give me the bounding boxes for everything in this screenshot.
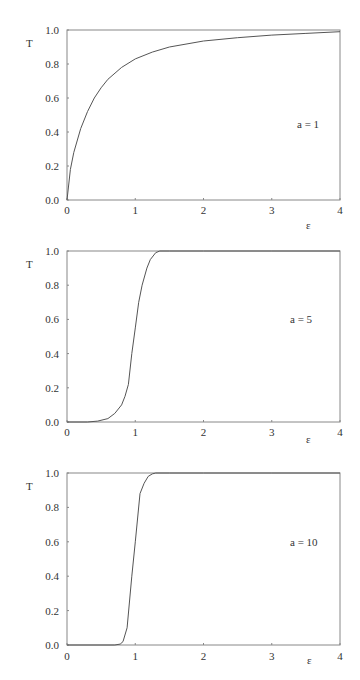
y-tick-label: 0.2 — [45, 382, 59, 394]
x-tick-label: 4 — [337, 204, 343, 216]
y-tick-label: 0.6 — [45, 536, 59, 548]
x-tick-label: 1 — [133, 650, 139, 662]
parameter-annotation: a = 1 — [297, 118, 319, 130]
x-tick-label: 4 — [337, 426, 343, 438]
chart-panel-a10: 0.00.20.40.60.81.001234Tεa = 10 — [0, 450, 360, 680]
x-axis-label: ε — [306, 433, 311, 445]
y-tick-label: 1.0 — [45, 467, 59, 479]
x-tick-label: 3 — [269, 426, 275, 438]
x-axis-label: ε — [306, 219, 311, 230]
y-axis-label: T — [26, 480, 33, 492]
x-tick-label: 1 — [133, 426, 139, 438]
x-tick-label: 2 — [201, 650, 207, 662]
y-tick-label: 0.4 — [45, 348, 59, 360]
chart-panel-a5: 0.00.20.40.60.81.001234Tεa = 5 — [0, 230, 360, 450]
y-tick-label: 0.0 — [45, 639, 59, 651]
y-tick-label: 0.8 — [45, 501, 59, 513]
transmission-curve — [67, 32, 340, 200]
plot-frame — [67, 473, 340, 645]
y-tick-label: 0.8 — [45, 279, 59, 291]
chart-panel-a1: 0.00.20.40.60.81.001234Tεa = 1 — [0, 0, 360, 230]
y-tick-label: 0.8 — [45, 58, 59, 70]
y-tick-label: 0.2 — [45, 605, 59, 617]
x-tick-label: 0 — [64, 650, 70, 662]
transmission-curve — [67, 251, 340, 422]
x-tick-label: 3 — [269, 204, 275, 216]
y-axis-label: T — [26, 37, 33, 49]
x-axis-label: ε — [307, 654, 312, 666]
y-tick-label: 1.0 — [45, 245, 59, 257]
x-tick-label: 2 — [201, 426, 207, 438]
y-tick-label: 0.0 — [45, 416, 59, 428]
y-tick-label: 1.0 — [45, 24, 59, 36]
y-tick-label: 0.0 — [45, 194, 59, 206]
x-tick-label: 0 — [64, 204, 70, 216]
x-tick-label: 4 — [337, 650, 343, 662]
x-tick-label: 0 — [64, 426, 70, 438]
y-tick-label: 0.6 — [45, 92, 59, 104]
x-tick-label: 1 — [133, 204, 139, 216]
y-axis-label: T — [26, 258, 33, 270]
chart-svg: 0.00.20.40.60.81.001234Tεa = 10 — [0, 450, 360, 680]
plot-frame — [67, 251, 340, 422]
x-tick-label: 3 — [269, 650, 275, 662]
transmission-curve — [67, 473, 340, 645]
y-tick-label: 0.4 — [45, 570, 59, 582]
parameter-annotation: a = 5 — [290, 313, 313, 325]
plot-frame — [67, 30, 340, 200]
y-tick-label: 0.4 — [45, 126, 59, 138]
y-tick-label: 0.2 — [45, 160, 59, 172]
x-tick-label: 2 — [201, 204, 207, 216]
y-tick-label: 0.6 — [45, 313, 59, 325]
chart-svg: 0.00.20.40.60.81.001234Tεa = 1 — [0, 0, 360, 230]
chart-svg: 0.00.20.40.60.81.001234Tεa = 5 — [0, 230, 360, 450]
parameter-annotation: a = 10 — [290, 536, 318, 548]
